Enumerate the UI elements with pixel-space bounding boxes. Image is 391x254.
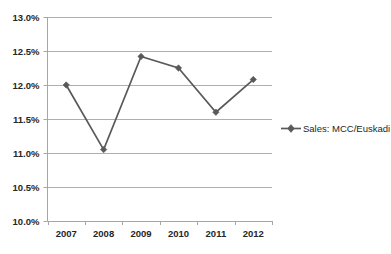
- y-axis-tick-label: 10.5%: [13, 182, 40, 193]
- line-chart: 13.0%12.5%12.0%11.5%11.0%10.5%10.0% 2007…: [0, 0, 391, 254]
- y-axis-ticks: [44, 18, 48, 222]
- y-axis-tick-label: 13.0%: [13, 12, 40, 23]
- gridlines: [48, 18, 273, 222]
- x-axis-tick-labels: 200720082009201020112012: [56, 228, 264, 239]
- x-axis-tick-label: 2008: [93, 228, 114, 239]
- legend: Sales: MCC/Euskadi: [281, 123, 390, 134]
- data-point-marker: [138, 53, 144, 59]
- legend-marker-diamond-icon: [288, 125, 295, 133]
- y-axis-tick-label: 12.0%: [13, 80, 40, 91]
- x-axis-tick-label: 2007: [56, 228, 77, 239]
- x-axis-tick-label: 2011: [206, 228, 227, 239]
- x-axis-tick-label: 2010: [168, 228, 189, 239]
- y-axis-tick-label: 12.5%: [13, 46, 40, 57]
- series-line-sales-mcc-euskadi: [66, 56, 253, 149]
- x-axis-tick-label: 2009: [130, 228, 151, 239]
- x-axis-tick-label: 2012: [243, 228, 264, 239]
- y-axis-tick-labels: 13.0%12.5%12.0%11.5%11.0%10.5%10.0%: [13, 12, 40, 227]
- chart-canvas: 13.0%12.5%12.0%11.5%11.0%10.5%10.0% 2007…: [0, 0, 391, 254]
- y-axis-tick-label: 11.0%: [13, 148, 40, 159]
- y-axis-tick-label: 11.5%: [13, 114, 40, 125]
- y-axis-tick-label: 10.0%: [13, 216, 40, 227]
- legend-label-sales-mcc-euskadi: Sales: MCC/Euskadi: [303, 123, 390, 134]
